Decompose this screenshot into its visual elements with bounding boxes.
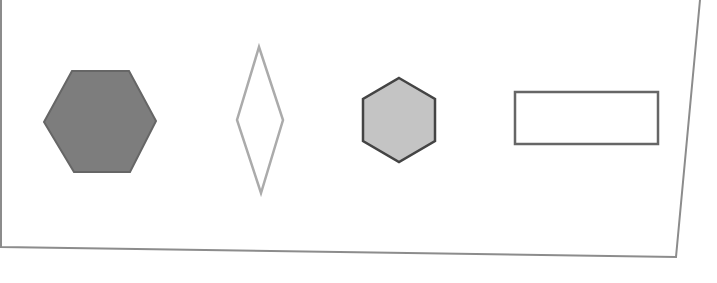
shapes-figure [0,0,717,283]
diagram-canvas [0,0,717,283]
